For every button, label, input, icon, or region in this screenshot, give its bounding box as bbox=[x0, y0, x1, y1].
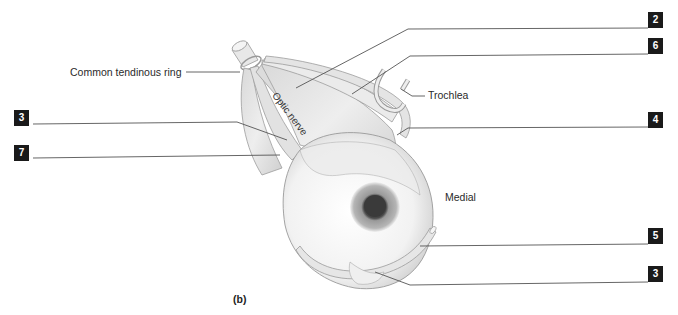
extraocular-muscles-illustration bbox=[0, 0, 678, 315]
leader-line-6 bbox=[352, 54, 648, 94]
leader-line-3-right bbox=[375, 272, 648, 285]
number-label-4: 4 bbox=[648, 112, 663, 128]
pupil bbox=[364, 195, 386, 217]
common-tendinous-ring-label: Common tendinous ring bbox=[70, 67, 181, 78]
eyeball bbox=[283, 133, 433, 289]
number-label-3-right: 3 bbox=[648, 266, 663, 282]
number-label-7: 7 bbox=[14, 145, 29, 161]
eye-muscles-diagram: Common tendinous ring Trochlea Medial Op… bbox=[0, 0, 678, 315]
leader-line-4 bbox=[397, 127, 648, 135]
figure-caption: (b) bbox=[233, 293, 246, 305]
number-label-3-left: 3 bbox=[14, 110, 29, 126]
trochlea-label: Trochlea bbox=[428, 90, 468, 101]
leader-line-7 bbox=[33, 155, 280, 158]
number-label-6: 6 bbox=[648, 38, 663, 54]
leader-line-5 bbox=[420, 244, 648, 246]
number-label-5: 5 bbox=[648, 228, 663, 244]
number-label-2: 2 bbox=[648, 12, 663, 28]
medial-label: Medial bbox=[445, 192, 476, 203]
